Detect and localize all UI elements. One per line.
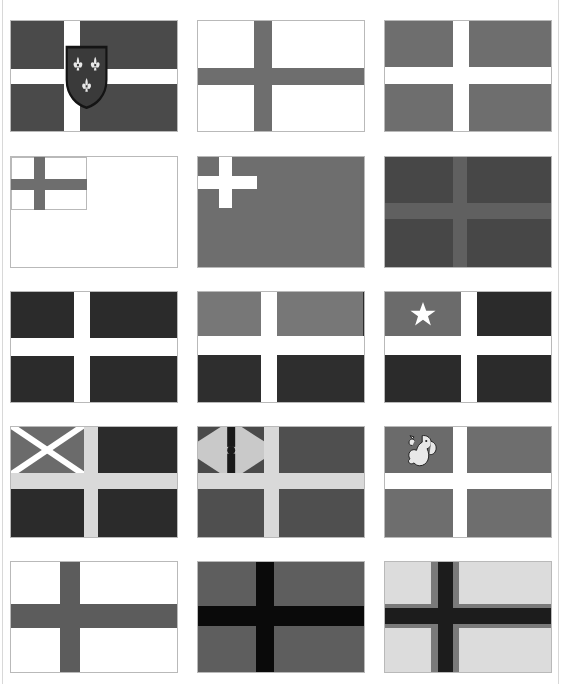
quadrant-lower-fly: [277, 355, 363, 402]
white-ensign-with-gray-canton-cross[interactable]: [10, 156, 178, 268]
cross-horizontal-arm: [198, 336, 364, 355]
cross-horizontal-arm: [385, 608, 551, 623]
quadrant-lower-hoist: [198, 355, 261, 402]
flag-cell-5-1: [0, 561, 187, 684]
flag-cell-3-3: [374, 291, 561, 426]
nordic-cross-with-fleur-de-lis-shield[interactable]: [10, 20, 178, 132]
cross-horizontal-arm: [385, 473, 551, 488]
flag-cell-5-2: [187, 561, 374, 684]
flag-cell-1-2: [187, 20, 374, 156]
flag-cell-2-1: [0, 156, 187, 291]
flag-cell-2-2: [187, 156, 374, 291]
flag-cell-4-2: [187, 426, 374, 561]
cross-horizontal-arm: [11, 604, 177, 628]
cross-horizontal-arm: [198, 606, 364, 626]
union-jack-icon: [198, 427, 264, 473]
fleur-de-lis-shield-icon: [65, 45, 108, 109]
canton: [385, 292, 461, 336]
cross-horizontal-arm: [11, 473, 177, 488]
canton: [11, 427, 84, 473]
dark-gray-field-light-gray-cross[interactable]: [384, 156, 552, 268]
white-cross-with-star-in-canton[interactable]: [384, 291, 552, 403]
flag-cell-3-1: [0, 291, 187, 426]
flag-gallery-page: [0, 0, 561, 684]
cross-horizontal-arm: [11, 179, 87, 190]
canton: [385, 427, 453, 473]
bicolor-quadrants-white-cross[interactable]: [197, 291, 365, 403]
white-cross-with-lion-canton[interactable]: [384, 426, 552, 538]
star-icon: [403, 300, 443, 327]
cross-horizontal-arm: [385, 67, 551, 84]
charcoal-field-white-cross[interactable]: [10, 291, 178, 403]
flag-grid: [0, 0, 561, 684]
white-field-gray-cross[interactable]: [197, 20, 365, 132]
white-cross-with-union-canton[interactable]: [197, 426, 365, 538]
cross-horizontal-arm: [198, 68, 364, 85]
white-cross-with-saltire-canton[interactable]: [10, 426, 178, 538]
flag-cell-5-3: [374, 561, 561, 684]
rampant-lion-icon: [389, 430, 449, 471]
flag-cell-4-1: [0, 426, 187, 561]
cross-horizontal-arm: [11, 338, 177, 356]
cross-horizontal-arm: [385, 336, 551, 355]
quadrant-upper-hoist: [198, 292, 261, 336]
cross-horizontal-arm: [198, 473, 364, 488]
white-field-gray-centered-cross[interactable]: [10, 561, 178, 673]
quadrant-upper-fly: [277, 292, 363, 336]
flag-cell-2-3: [374, 156, 561, 291]
canton: [198, 427, 264, 473]
light-field-black-cross-gray-fimbriation[interactable]: [384, 561, 552, 673]
gray-field-white-canton-cross[interactable]: [197, 156, 365, 268]
gray-field-white-cross[interactable]: [384, 20, 552, 132]
flag-cell-1-1: [0, 20, 187, 156]
flag-cell-3-2: [187, 291, 374, 426]
cross-horizontal-arm: [198, 176, 258, 189]
gray-field-black-cross[interactable]: [197, 561, 365, 673]
flag-cell-1-3: [374, 20, 561, 156]
flag-cell-4-3: [374, 426, 561, 561]
cross-horizontal-arm: [385, 203, 551, 218]
